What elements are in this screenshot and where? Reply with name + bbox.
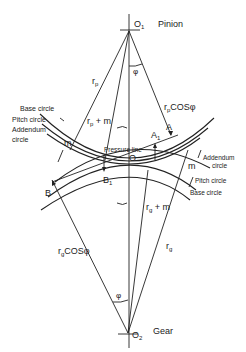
rg-plus-m-label: rg + m [146, 202, 170, 213]
point-a-label: A [166, 122, 172, 132]
point-o-label: O [129, 153, 136, 163]
pressure-line-label: Pressure line [104, 146, 142, 153]
m-right-label: m [188, 161, 196, 171]
left-addendum-circle-label: circle [12, 136, 28, 143]
pitch-callout-arrow [189, 177, 193, 187]
left-addendum-label: Addendum [12, 126, 46, 133]
line-rp-cos-phi [129, 31, 171, 135]
right-base-circle-label: Base circle [190, 189, 222, 196]
right-addendum-circle-label: circle [212, 162, 228, 169]
point-b-label: B [45, 188, 51, 198]
right-addendum-label: Addendum [203, 154, 234, 161]
rg-cos-phi-label: rgCOSφ [58, 246, 90, 257]
m-right-arrow [198, 150, 201, 158]
rotation-arrow-bottom [117, 203, 127, 205]
pinion-label: Pinion [158, 19, 183, 29]
gear-mesh-diagram: O1 Pinion O2 Gear φ φ rp rp + m rpCOSφ r… [0, 0, 246, 352]
point-a1-label: A1 [151, 130, 161, 141]
o1-label: O1 [134, 19, 145, 30]
phi-top-label: φ [133, 67, 138, 76]
rp-cos-phi-label: rpCOSφ [164, 102, 196, 113]
point-b1-label: B1 [103, 175, 113, 186]
phi-arc-bottom [113, 300, 128, 302]
right-pitch-circle-label: Pitch circle [195, 177, 227, 184]
line-rp [70, 31, 129, 150]
rotation-arrow-top [117, 127, 127, 129]
line-rg-plus-m [128, 170, 148, 333]
m-left-label: m [64, 138, 72, 148]
rg-label: rg [166, 241, 172, 252]
rp-label: rp [92, 76, 99, 87]
left-pitch-circle-label: Pitch circle [12, 116, 46, 123]
phi-arc-top [129, 64, 142, 66]
left-base-circle-label: Base circle [20, 105, 54, 112]
m-left-arrow [58, 150, 63, 162]
line-rp-plus-m [105, 31, 129, 160]
o2-label: O2 [132, 330, 143, 341]
rp-plus-m-label: rp + m [87, 116, 111, 127]
phi-bottom-label: φ [116, 291, 121, 300]
gear-label: Gear [153, 326, 173, 336]
pitch-left-callout [60, 118, 64, 121]
